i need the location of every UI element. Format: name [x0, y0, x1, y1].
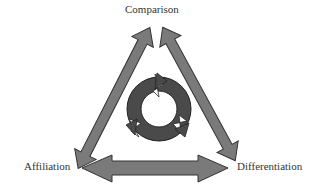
- arrow-comparison-differentiation: [152, 21, 246, 166]
- label-comparison: Comparison: [125, 3, 179, 15]
- arrow-comparison-affiliation: [67, 22, 160, 174]
- label-affiliation: Affiliation: [24, 160, 70, 172]
- arrow-affiliation-differentiation: [82, 155, 228, 182]
- label-differentiation: Differentiation: [237, 160, 302, 172]
- cycle-icon: [126, 73, 191, 141]
